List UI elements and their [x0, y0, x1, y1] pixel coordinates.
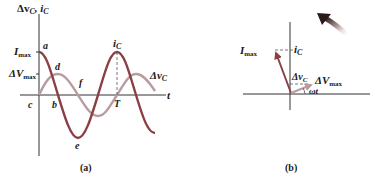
ic-projection-label: iC	[294, 43, 303, 57]
current-phasor	[276, 53, 291, 93]
point-b-label: b	[52, 99, 57, 110]
panel-a-waveforms: ΔvC, iC Imax ΔVmax t a b c d e f T iC Δv…	[8, 2, 171, 174]
rotation-arrow-icon	[317, 13, 348, 36]
vc-projection-label: ΔvC	[291, 71, 308, 84]
angle-arc	[303, 88, 305, 94]
voltage-curve-label: ΔvC	[149, 69, 168, 83]
y-axis-label: ΔvC, iC	[17, 2, 49, 16]
t-axis-label: t	[167, 89, 171, 101]
point-c-label: c	[28, 99, 33, 110]
point-d-label: d	[55, 61, 61, 72]
point-T-label: T	[114, 98, 121, 109]
imax-phasor-label: Imax	[239, 44, 258, 58]
vmax-phasor-label: ΔVmax	[314, 74, 343, 88]
voltage-phasor	[291, 85, 311, 93]
point-a-label: a	[43, 40, 48, 51]
current-curve-label: iC	[113, 37, 122, 51]
omega-t-label: ωt	[309, 86, 319, 96]
diagram-canvas: ΔvC, iC Imax ΔVmax t a b c d e f T iC Δv…	[0, 0, 374, 181]
imax-label: Imax	[13, 45, 32, 59]
caption-b: (b)	[285, 162, 297, 174]
point-f-label: f	[79, 77, 84, 88]
vmax-label: ΔVmax	[8, 67, 37, 81]
panel-b-phasor: Imax iC ΔvC ΔVmax ωt (b)	[239, 13, 370, 174]
caption-a: (a)	[80, 162, 92, 174]
point-e-label: e	[75, 140, 80, 151]
